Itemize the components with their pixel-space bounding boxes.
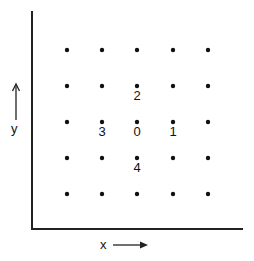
lattice-dot (65, 48, 69, 52)
lattice-dot (206, 84, 210, 88)
point-label-3: 3 (98, 125, 105, 138)
lattice-dot (171, 84, 175, 88)
lattice-dot (65, 84, 69, 88)
lattice-dot (206, 192, 210, 196)
lattice-dot (171, 156, 175, 160)
point-label-2: 2 (133, 89, 140, 102)
y-axis-label: y (11, 122, 18, 135)
lattice-dot (65, 156, 69, 160)
lattice-dot (100, 156, 104, 160)
lattice-dot (100, 192, 104, 196)
lattice-dot (206, 48, 210, 52)
point-label-4: 4 (133, 161, 140, 174)
lattice-dot (206, 156, 210, 160)
x-arrow-icon (113, 242, 148, 249)
point-label-1: 1 (169, 125, 176, 138)
lattice-dot (100, 84, 104, 88)
lattice-dot (206, 120, 210, 124)
lattice-dot (65, 192, 69, 196)
diagram-svg (0, 0, 254, 261)
y-arrow-icon (13, 84, 20, 120)
lattice-dot (171, 48, 175, 52)
x-axis-label: x (100, 238, 107, 251)
lattice-dot (135, 48, 139, 52)
lattice-dot (65, 120, 69, 124)
diagram-canvas: y x 01234 (0, 0, 254, 261)
lattice-dot (171, 192, 175, 196)
lattice-dot (135, 192, 139, 196)
point-label-0: 0 (133, 125, 140, 138)
lattice-dot (100, 48, 104, 52)
